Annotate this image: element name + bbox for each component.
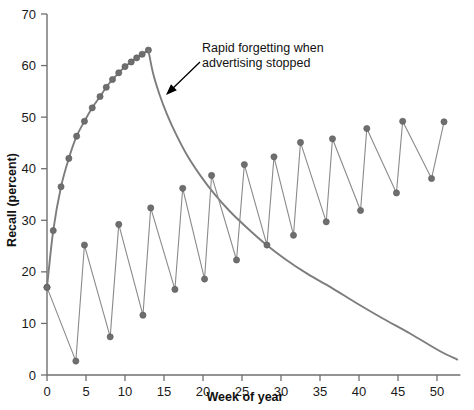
data-point bbox=[97, 93, 103, 99]
y-tick-label-30: 30 bbox=[22, 213, 36, 228]
data-point bbox=[107, 334, 113, 340]
data-point bbox=[122, 64, 128, 70]
recall-vs-week-chart: 01020304050607005101520253035404550 Rapi… bbox=[0, 0, 474, 410]
data-point bbox=[297, 139, 303, 145]
y-tick-label-70: 70 bbox=[22, 7, 36, 22]
data-point bbox=[357, 207, 363, 213]
data-point bbox=[148, 205, 154, 211]
x-tick-label-15: 15 bbox=[157, 384, 171, 399]
data-point bbox=[329, 136, 335, 142]
x-tick-label-5: 5 bbox=[82, 384, 89, 399]
data-point bbox=[58, 184, 64, 190]
data-point bbox=[73, 358, 79, 364]
data-point bbox=[241, 161, 247, 167]
data-point bbox=[116, 221, 122, 227]
data-point bbox=[172, 286, 178, 292]
data-series bbox=[44, 47, 457, 364]
data-point bbox=[400, 118, 406, 124]
data-point bbox=[364, 125, 370, 131]
data-point bbox=[134, 55, 140, 61]
data-point bbox=[180, 185, 186, 191]
data-point bbox=[103, 84, 109, 90]
x-tick-label-10: 10 bbox=[118, 384, 132, 399]
y-tick-label-0: 0 bbox=[29, 368, 36, 383]
y-tick-label-60: 60 bbox=[22, 58, 36, 73]
data-point bbox=[50, 228, 56, 234]
x-tick-label-50: 50 bbox=[430, 384, 444, 399]
y-axis-title: Recall (percent) bbox=[5, 153, 19, 247]
data-point bbox=[109, 76, 115, 82]
rapid-forgetting-note-arrow-line bbox=[170, 62, 200, 91]
data-point bbox=[128, 59, 134, 65]
data-point bbox=[66, 155, 72, 161]
rapid-forgetting-note-text: Rapid forgetting whenadvertising stopped bbox=[202, 41, 324, 70]
data-point bbox=[139, 51, 145, 57]
data-point bbox=[264, 242, 270, 248]
x-tick-label-45: 45 bbox=[391, 384, 405, 399]
data-point bbox=[140, 312, 146, 318]
data-point bbox=[290, 232, 296, 238]
y-tick-label-10: 10 bbox=[22, 316, 36, 331]
x-tick-label-35: 35 bbox=[313, 384, 327, 399]
annotations: Rapid forgetting whenadvertising stopped bbox=[166, 41, 324, 95]
y-tick-label-40: 40 bbox=[22, 161, 36, 176]
data-point bbox=[233, 257, 239, 263]
data-point bbox=[208, 172, 214, 178]
x-axis-title: Week of year bbox=[207, 390, 284, 404]
data-point bbox=[44, 284, 50, 290]
data-point bbox=[201, 276, 207, 282]
data-point bbox=[271, 154, 277, 160]
x-tick-label-40: 40 bbox=[352, 384, 366, 399]
data-point bbox=[441, 119, 447, 125]
data-point bbox=[89, 105, 95, 111]
data-point bbox=[323, 219, 329, 225]
chart-container: 01020304050607005101520253035404550 Rapi… bbox=[0, 0, 474, 410]
y-tick-label-50: 50 bbox=[22, 110, 36, 125]
data-point bbox=[74, 133, 80, 139]
y-tick-label-20: 20 bbox=[22, 264, 36, 279]
data-point bbox=[428, 175, 434, 181]
data-point bbox=[81, 242, 87, 248]
series-line-1 bbox=[148, 50, 457, 359]
data-point bbox=[116, 70, 122, 76]
series-line-2 bbox=[47, 121, 444, 361]
data-point bbox=[393, 190, 399, 196]
x-tick-label-0: 0 bbox=[43, 384, 50, 399]
series-line-0 bbox=[47, 50, 148, 287]
data-point bbox=[81, 118, 87, 124]
